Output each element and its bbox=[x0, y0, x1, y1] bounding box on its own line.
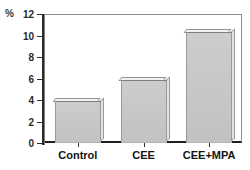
y-tick-6 bbox=[37, 79, 42, 80]
y-tick-0 bbox=[37, 143, 42, 144]
bars-group bbox=[45, 14, 242, 143]
bar-top-edge bbox=[187, 32, 232, 33]
y-tick-12 bbox=[37, 14, 42, 15]
x-tick-0 bbox=[78, 143, 79, 147]
x-tick-1 bbox=[144, 143, 145, 147]
bar-face bbox=[56, 101, 101, 142]
bar-top-edge bbox=[56, 101, 101, 102]
y-tick-4 bbox=[37, 100, 42, 101]
y-tick-label-6: 6 bbox=[8, 73, 34, 84]
y-tick-label-10: 10 bbox=[8, 30, 34, 41]
bar-face bbox=[122, 80, 167, 142]
y-tick-label-0: 0 bbox=[8, 138, 34, 149]
x-axis-label-cee: CEE bbox=[132, 149, 155, 161]
y-tick-2 bbox=[37, 122, 42, 123]
y-tick-8 bbox=[37, 57, 42, 58]
y-tick-label-12: 12 bbox=[8, 9, 34, 20]
bar-top-edge bbox=[122, 80, 167, 81]
x-tick-2 bbox=[209, 143, 210, 147]
bar-right-bevel bbox=[231, 29, 235, 142]
x-axis-label-control: Control bbox=[58, 149, 97, 161]
y-tick-10 bbox=[37, 36, 42, 37]
bar-face bbox=[187, 32, 232, 142]
bar-chart-figure: % 024681012 ControlCEECEE+MPA bbox=[0, 0, 250, 170]
bar-right-bevel bbox=[100, 98, 104, 142]
y-tick-label-2: 2 bbox=[8, 116, 34, 127]
x-axis-label-cee-mpa: CEE+MPA bbox=[183, 149, 236, 161]
bar-cee-mpa bbox=[186, 32, 232, 143]
y-tick-label-8: 8 bbox=[8, 52, 34, 63]
y-tick-label-4: 4 bbox=[8, 95, 34, 106]
bar-control bbox=[55, 101, 101, 143]
bar-right-bevel bbox=[166, 76, 170, 142]
bar-cee bbox=[121, 80, 167, 143]
